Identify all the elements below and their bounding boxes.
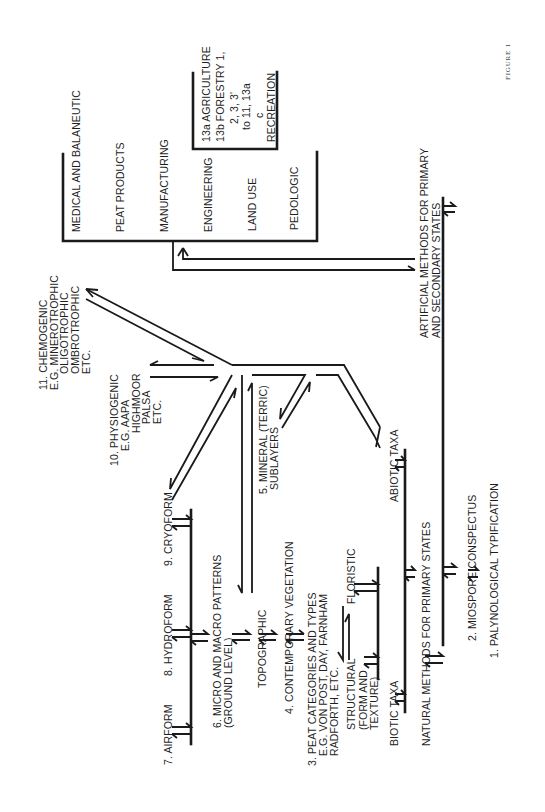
output-engineering: ENGINEERING	[202, 157, 214, 232]
topographic-double-arrow	[232, 630, 250, 644]
c3-line-3: RADFORTH, ETC.	[328, 667, 340, 756]
c8-hydroform: 8. HYDROFORM	[162, 594, 174, 676]
connector-to-artificial-outer	[173, 241, 415, 270]
abiotic-arrowhead	[375, 427, 380, 448]
chemogenic-in-line	[86, 299, 204, 361]
micro-macro-double-arrow	[191, 630, 208, 645]
output-pedologic: PEDOLOGIC	[288, 166, 300, 230]
palynological-label: 1. PALYNOLOGICAL TYPIFICATION	[488, 483, 500, 658]
natural-methods-label: NATURAL METHODS FOR PRIMARY STATES	[420, 522, 432, 746]
hub-abiotic-inner	[316, 375, 375, 437]
floristic-label: FLORISTIC	[345, 548, 357, 604]
physiogenic-out	[150, 361, 214, 365]
cryoform-out	[170, 375, 232, 489]
natural-methods-double-arrow	[405, 566, 415, 581]
output-manufacturing: MANUFACTURING	[158, 139, 170, 232]
land-use-line-5: c	[253, 113, 265, 118]
c11-line-5: ETC.	[80, 350, 92, 374]
artificial-methods-line-1: ARTIFICIAL METHODS FOR PRIMARY	[418, 148, 430, 338]
artificial-methods-line-2: AND SECONDARY STATES	[430, 203, 442, 338]
floristic-double-arrow	[354, 580, 378, 595]
land-use-line-2: 13b FORESTRY 1,	[214, 52, 226, 142]
c7-airform: 7. AIRFORM	[162, 704, 174, 765]
c10-line-5: ETC.	[151, 400, 163, 424]
chemogenic-out-line	[86, 289, 232, 365]
output-peat-products: PEAT PRODUCTS	[114, 142, 126, 232]
c9-cryoform: 9. CRYOFORM	[162, 492, 174, 566]
c6-line-2: (GROUND LEVEL)	[222, 637, 234, 728]
structural-floristic-link-1	[338, 606, 343, 660]
structural-line-3: TEXTURE)	[368, 677, 380, 730]
topographic-up	[248, 383, 252, 593]
physiogenic-in	[150, 377, 218, 381]
output-land-use: LAND USE	[246, 178, 258, 231]
hydroform-double-arrow	[172, 626, 191, 641]
cryoform-in	[172, 388, 236, 500]
figure-caption: FIGURE 1	[504, 43, 512, 80]
classification-diagram: FIGURE 1 MEDICAL AND BALANEUTIC PEAT PRO…	[0, 0, 545, 812]
topographic-label: TOPOGRAPHIC	[256, 609, 268, 688]
c4-vegetation: 4. CONTEMPORARY VEGETATION	[283, 541, 295, 714]
miospore-double-arrow	[443, 563, 456, 578]
cryoform-double-arrow	[172, 515, 191, 530]
mineral-in	[282, 382, 310, 428]
land-use-line-6: RECREATION	[265, 73, 277, 142]
c5-line-2: SUBLAYERS	[268, 427, 280, 490]
output-medical: MEDICAL AND BALANEUTIC	[70, 90, 82, 232]
labels: FIGURE 1 MEDICAL AND BALANEUTIC PEAT PRO…	[37, 43, 512, 766]
connector-to-artificial-inner	[183, 248, 415, 259]
topographic-down	[238, 375, 242, 593]
land-use-line-3: 2, 3, 3'	[228, 92, 240, 124]
double-arrow-artificial	[443, 202, 455, 216]
outputs-bracket	[63, 152, 317, 241]
structural-line-1: STRUCTURAL	[345, 658, 357, 730]
abiotic-taxa-label: ABIOTIC TAXA	[388, 429, 400, 502]
land-use-line-4: to 11, 13a	[240, 83, 252, 130]
land-use-line-1: 13a AGRICULTURE	[200, 46, 212, 142]
structural-double-arrow	[364, 653, 378, 668]
airform-double-arrow	[172, 723, 191, 738]
structural-floristic-link-2	[345, 614, 349, 660]
biotic-taxa-label: BIOTIC TAXA	[388, 681, 400, 746]
miospore-label: 2. MIOSPORE CONSPECTUS	[466, 495, 478, 641]
